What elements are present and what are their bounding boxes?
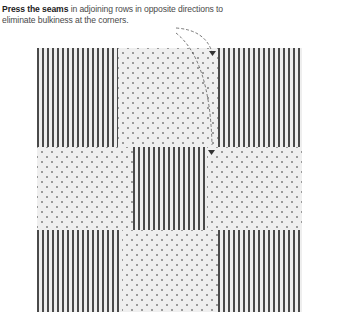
dashed-arrow-icon	[0, 0, 340, 327]
